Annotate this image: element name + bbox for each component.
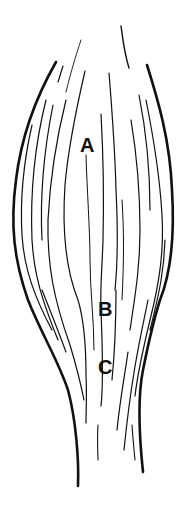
fiber-line [130, 120, 140, 330]
outline-left [13, 62, 78, 486]
label-a: A [80, 135, 94, 155]
tendon-line [66, 40, 81, 92]
fiber-line [86, 155, 94, 350]
tendon-line [121, 26, 129, 68]
label-c: C [98, 357, 112, 377]
fiber-line [64, 71, 86, 423]
fiber-line [124, 300, 148, 450]
muscle-diagram [0, 0, 183, 506]
tendon-line [58, 66, 63, 82]
label-b: B [98, 299, 112, 319]
fiber-line [41, 105, 53, 240]
fiber-line [122, 200, 124, 300]
fiber-line [117, 352, 128, 430]
fiber-line [132, 425, 135, 460]
fiber-line [32, 100, 58, 340]
fiber-line [109, 73, 117, 290]
fiber-line [112, 290, 116, 380]
